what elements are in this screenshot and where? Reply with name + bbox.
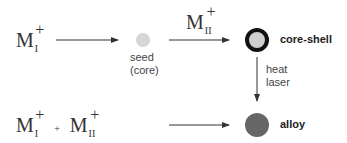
- alloy-particle: [245, 113, 269, 137]
- subscript: II: [89, 128, 96, 139]
- plus-sign: +: [54, 123, 60, 134]
- element-symbol: M: [70, 114, 88, 136]
- element-symbol: M: [186, 11, 204, 33]
- reagent-m2: MII+: [186, 12, 220, 33]
- charge: +: [35, 21, 44, 38]
- seed-label-line2: (core): [130, 64, 159, 77]
- transform-line1: heat: [266, 63, 290, 76]
- reactant-mixture: MI++MII+: [16, 115, 103, 136]
- core-shell-particle: [247, 30, 267, 50]
- element-symbol: M: [16, 114, 34, 136]
- charge: +: [35, 106, 44, 123]
- subscript: I: [35, 128, 38, 139]
- subscript: I: [35, 43, 38, 54]
- reactant-m1: MI+: [16, 30, 46, 51]
- element-symbol: M: [16, 29, 34, 51]
- seed-label-line1: seed: [130, 51, 159, 64]
- charge: +: [206, 3, 215, 20]
- alloy-label: alloy: [280, 118, 305, 130]
- seed-label: seed (core): [130, 51, 159, 77]
- charge: +: [90, 106, 99, 123]
- seed-particle: [136, 33, 150, 47]
- subscript: II: [205, 25, 212, 36]
- transform-label: heat laser: [266, 63, 290, 89]
- transform-line2: laser: [266, 76, 290, 89]
- core-shell-label: core-shell: [280, 33, 332, 45]
